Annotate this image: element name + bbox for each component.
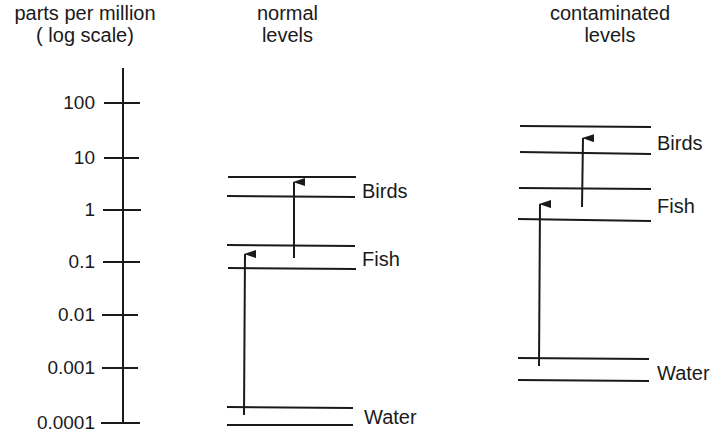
diagram-graphics: [0, 0, 725, 440]
normal-birds-bottom: [227, 196, 355, 197]
normal-water-top: [227, 407, 353, 408]
contaminated-water-top: [518, 358, 649, 359]
contaminated-birds-bottom: [520, 152, 651, 154]
contaminated-fish-top: [519, 188, 651, 189]
contaminated-birds-top: [520, 126, 651, 127]
normal-arrow-water-to-fish: [244, 254, 245, 415]
biomagnification-diagram: parts per million ( log scale) normal le…: [0, 0, 725, 440]
normal-fish-top: [227, 245, 355, 246]
contaminated-arrow-fish-to-birds: [582, 138, 583, 207]
contaminated-arrow-water-to-fish: [539, 204, 540, 366]
contaminated-water-bottom: [518, 380, 649, 381]
contaminated-fish-bottom: [518, 219, 651, 221]
normal-fish-bottom: [228, 268, 356, 269]
